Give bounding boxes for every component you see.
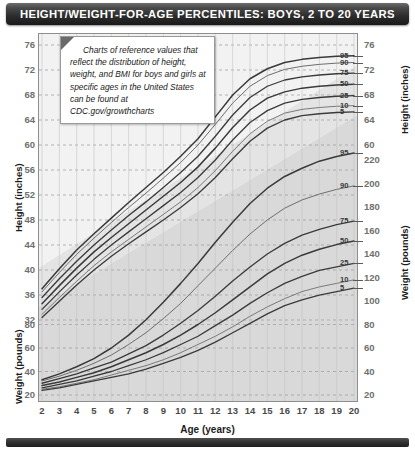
y-tick-height-left-40: 40 — [18, 265, 35, 275]
leader-height-90 — [353, 63, 363, 64]
x-tick-age-13: 13 — [225, 406, 241, 416]
y-tick-height-left-36: 36 — [18, 290, 35, 300]
leader-height-50 — [353, 84, 363, 85]
y-tick-height-left-76: 76 — [18, 40, 35, 50]
right-weight-axis-title: Weight (pounds) — [399, 225, 410, 300]
chart-title-bar: HEIGHT/WEIGHT-FOR-AGE PERCENTILES: BOYS,… — [6, 3, 409, 25]
left-weight-axis-title: Weight (pounds) — [13, 329, 24, 404]
leader-weight-50 — [353, 241, 363, 242]
x-tick-age-18: 18 — [311, 406, 327, 416]
y-tick-weight-right-100: 100 — [364, 296, 386, 306]
x-tick-age-3: 3 — [51, 406, 67, 416]
x-tick-age-19: 19 — [329, 406, 345, 416]
page-title: HEIGHT/WEIGHT-FOR-AGE PERCENTILES: BOYS,… — [20, 8, 395, 20]
leader-height-5 — [353, 112, 363, 113]
y-tick-height-left-60: 60 — [18, 140, 35, 150]
leader-weight-90 — [353, 186, 363, 187]
x-tick-age-11: 11 — [190, 406, 206, 416]
x-tick-age-9: 9 — [155, 406, 171, 416]
x-tick-age-20: 20 — [346, 406, 362, 416]
y-tick-height-right-68: 68 — [364, 90, 384, 100]
x-tick-age-8: 8 — [138, 406, 154, 416]
percentile-label-weight-25: 25 — [340, 259, 348, 267]
right-height-axis-title: Height (inches) — [399, 65, 410, 134]
leader-weight-5 — [353, 288, 363, 289]
x-tick-age-4: 4 — [69, 406, 85, 416]
leader-height-25 — [353, 96, 363, 97]
y-tick-height-right-64: 64 — [364, 115, 384, 125]
y-tick-weight-right-20: 20 — [364, 390, 386, 400]
y-tick-weight-right-120: 120 — [364, 273, 386, 283]
percentile-label-weight-5: 5 — [340, 284, 344, 292]
y-tick-weight-right-140: 140 — [364, 249, 386, 259]
leader-weight-95 — [353, 153, 363, 154]
leader-weight-25 — [353, 263, 363, 264]
y-tick-height-left-64: 64 — [18, 115, 35, 125]
percentile-label-height-25: 25 — [340, 92, 348, 100]
x-tick-age-17: 17 — [294, 406, 310, 416]
y-tick-weight-right-180: 180 — [364, 202, 386, 212]
y-tick-height-right-60: 60 — [364, 140, 384, 150]
x-tick-age-10: 10 — [173, 406, 189, 416]
y-tick-weight-right-200: 200 — [364, 179, 386, 189]
leader-height-95 — [353, 56, 363, 57]
percentile-label-height-50: 50 — [340, 80, 348, 88]
percentile-label-weight-90: 90 — [340, 182, 348, 190]
y-tick-weight-right-220: 220 — [364, 155, 386, 165]
percentile-label-weight-75: 75 — [340, 217, 348, 225]
y-tick-height-right-76: 76 — [364, 40, 384, 50]
x-tick-age-5: 5 — [86, 406, 102, 416]
leader-weight-75 — [353, 221, 363, 222]
y-tick-weight-right-40: 40 — [364, 367, 386, 377]
x-tick-age-15: 15 — [259, 406, 275, 416]
x-tick-age-16: 16 — [277, 406, 293, 416]
x-tick-age-14: 14 — [242, 406, 258, 416]
x-tick-age-6: 6 — [103, 406, 119, 416]
y-tick-weight-left-80: 80 — [18, 320, 35, 330]
y-tick-weight-right-80: 80 — [364, 320, 386, 330]
leader-weight-10 — [353, 280, 363, 281]
x-tick-age-7: 7 — [121, 406, 137, 416]
y-tick-weight-right-160: 160 — [364, 226, 386, 236]
y-tick-height-left-44: 44 — [18, 240, 35, 250]
left-height-axis-title: Height (inches) — [13, 163, 24, 232]
percentile-label-height-90: 90 — [340, 59, 348, 67]
y-tick-weight-right-60: 60 — [364, 343, 386, 353]
y-tick-height-left-72: 72 — [18, 65, 35, 75]
leader-height-75 — [353, 73, 363, 74]
y-tick-height-right-72: 72 — [364, 65, 384, 75]
y-tick-height-left-68: 68 — [18, 90, 35, 100]
info-callout-text: Charts of reference values that reflect … — [70, 44, 208, 117]
growth-chart-page: HEIGHT/WEIGHT-FOR-AGE PERCENTILES: BOYS,… — [0, 0, 415, 449]
x-axis-title: Age (years) — [0, 424, 415, 435]
percentile-label-weight-50: 50 — [340, 237, 348, 245]
footer-bar — [6, 438, 409, 447]
leader-height-10 — [353, 106, 363, 107]
percentile-label-height-75: 75 — [340, 69, 348, 77]
info-callout: Charts of reference values that reflect … — [60, 36, 215, 124]
x-tick-age-2: 2 — [34, 406, 50, 416]
percentile-label-height-5: 5 — [340, 108, 344, 116]
percentile-label-weight-95: 95 — [340, 149, 348, 157]
x-tick-age-12: 12 — [207, 406, 223, 416]
